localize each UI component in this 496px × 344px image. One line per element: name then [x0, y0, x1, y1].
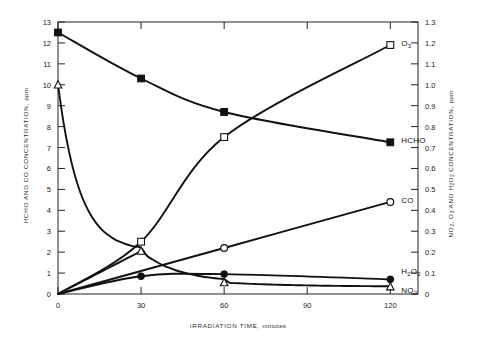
data-point-co	[387, 199, 394, 206]
y-axis-right-tick-label: 0.4	[425, 206, 435, 215]
y-axis-left-tick-label: 4	[47, 206, 51, 215]
x-axis-title-text: IRRADIATION TIME,	[190, 322, 260, 329]
y-axis-right-tick-label: 1.1	[425, 60, 435, 69]
y-axis-left-tick-label: 5	[47, 185, 51, 194]
y-axis-right-tick-label: 0.6	[425, 164, 435, 173]
chart-svg: 01234567891011121300.10.20.30.40.50.60.7…	[0, 0, 496, 344]
y-axis-right-tick-label: 0	[425, 290, 429, 299]
y-axis-left-tick-label: 2	[47, 248, 51, 257]
x-axis-tick-label: 90	[303, 301, 311, 310]
x-axis-title: IRRADIATION TIME, minutes	[118, 322, 358, 329]
series-line-o3	[58, 45, 390, 294]
x-axis-tick-label: 0	[56, 301, 60, 310]
y-axis-right-title-s1: 2	[449, 224, 455, 227]
y-axis-right-title: NO2, O3 AND H2O2 CONCENTRATION, ppm	[447, 69, 455, 259]
y-axis-left-tick-label: 6	[47, 164, 51, 173]
x-axis-tick-label: 30	[137, 301, 145, 310]
data-point-hcho	[387, 139, 394, 146]
y-axis-right-tick-label: 0.8	[425, 123, 435, 132]
data-point-h2o2	[138, 273, 145, 280]
chart-figure: 01234567891011121300.10.20.30.40.50.60.7…	[0, 0, 496, 344]
series-label-co: CO	[401, 196, 413, 205]
y-axis-right-title-p5: CONCENTRATION,	[447, 106, 454, 174]
y-axis-right-title-unit: ppm	[447, 91, 454, 104]
y-axis-right-title-p1: NO	[447, 227, 454, 238]
x-axis-tick-label: 120	[384, 301, 397, 310]
y-axis-right-title-s3: 2	[449, 183, 455, 186]
y-axis-left-tick-label: 12	[43, 39, 51, 48]
x-axis-tick-label: 60	[220, 301, 228, 310]
data-point-hcho	[221, 109, 228, 116]
y-axis-right-title-p2: , O	[447, 213, 454, 224]
y-axis-right-tick-label: 0.2	[425, 248, 435, 257]
y-axis-right-tick-label: 1.0	[425, 81, 435, 90]
y-axis-right-tick-label: 1.2	[425, 39, 435, 48]
y-axis-left-title-text: HCHO AND CO CONCENTRATION,	[22, 103, 29, 223]
series-label-o3: O3	[401, 39, 411, 49]
data-point-o3	[387, 42, 394, 49]
y-axis-left-title-unit: ppm	[22, 88, 29, 101]
data-point-co	[221, 245, 228, 252]
y-axis-right-tick-label: 0.9	[425, 102, 435, 111]
y-axis-right-title-p4: O	[447, 177, 454, 183]
data-point-o3	[138, 238, 145, 245]
y-axis-right-tick-label: 1.3	[425, 18, 435, 27]
y-axis-right-tick-label: 0.1	[425, 269, 435, 278]
data-point-o3	[221, 134, 228, 141]
y-axis-left-tick-label: 3	[47, 227, 51, 236]
y-axis-left-tick-label: 0	[47, 290, 51, 299]
y-axis-left-tick-label: 13	[43, 18, 51, 27]
y-axis-left-tick-label: 7	[47, 144, 51, 153]
series-line-hcho	[58, 32, 390, 142]
y-axis-right-title-p3: AND H	[447, 185, 454, 210]
y-axis-right-tick-label: 0.7	[425, 144, 435, 153]
x-axis-title-unit: minutes	[263, 322, 287, 329]
series-line-no2-rise	[58, 251, 141, 294]
y-axis-left-tick-label: 10	[43, 81, 51, 90]
data-point-hcho	[55, 29, 62, 36]
series-label-hcho: HCHO	[401, 136, 425, 145]
series-label-no2: NO2	[401, 286, 417, 296]
y-axis-right-title-s4: 2	[449, 174, 455, 177]
y-axis-left-tick-label: 11	[43, 60, 51, 69]
y-axis-left-tick-label: 1	[47, 269, 51, 278]
data-point-h2o2	[221, 271, 228, 278]
y-axis-right-tick-label: 0.3	[425, 227, 435, 236]
y-axis-left-tick-label: 9	[47, 102, 51, 111]
y-axis-left-tick-label: 8	[47, 123, 51, 132]
y-axis-left-title: HCHO AND CO CONCENTRATION, ppm	[22, 61, 29, 251]
series-label-h2o2: H2O2	[401, 267, 421, 277]
y-axis-right-tick-label: 0.5	[425, 185, 435, 194]
data-point-hcho	[138, 75, 145, 82]
